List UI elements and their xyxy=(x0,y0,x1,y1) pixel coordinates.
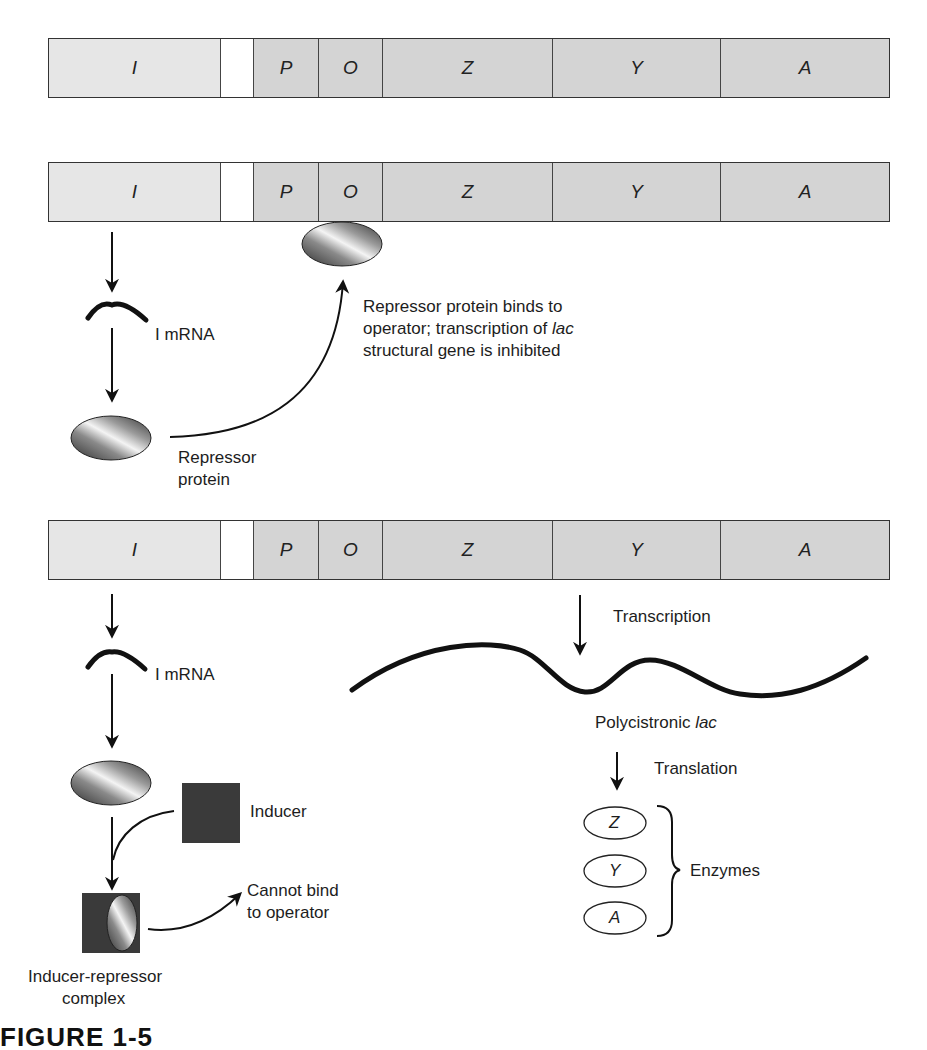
repressor-protein-label-line1: Repressor xyxy=(178,447,256,469)
binding-text-line1: Repressor protein binds to xyxy=(363,296,562,318)
polycistronic-prefix: Polycistronic xyxy=(595,713,695,732)
cannot-bind-line2: to operator xyxy=(247,902,329,924)
lac-italic: lac xyxy=(695,713,717,732)
complex-label-line1: Inducer-repressor xyxy=(28,966,162,988)
figure-caption: FIGURE 1-5 xyxy=(0,1022,153,1050)
binding-text-line2: operator; transcription of lac xyxy=(363,318,574,340)
binding-text-prefix: operator; transcription of xyxy=(363,319,552,338)
transcription-label: Transcription xyxy=(613,606,711,628)
binding-text-line3: structural gene is inhibited xyxy=(363,340,561,362)
translation-label: Translation xyxy=(654,758,737,780)
lac-italic: lac xyxy=(552,319,574,338)
complex-label-line2: complex xyxy=(62,988,125,1010)
cannot-bind-line1: Cannot bind xyxy=(247,880,339,902)
repressor-protein-icon xyxy=(71,761,151,805)
mrna-strand-icon xyxy=(88,652,145,669)
enzyme-a-label: A xyxy=(609,907,620,929)
repressor-in-complex-icon xyxy=(107,895,137,951)
induced-panel xyxy=(71,594,866,953)
inducer-square-icon xyxy=(182,783,240,843)
merge-curve-icon xyxy=(113,811,174,860)
repressor-protein-label-line2: protein xyxy=(178,469,230,491)
curved-arrow-icon xyxy=(170,282,343,437)
enzymes-label: Enzymes xyxy=(690,860,760,882)
i-mrna-label: I mRNA xyxy=(155,664,215,686)
repressor-protein-icon xyxy=(71,416,151,460)
repressed-panel xyxy=(71,222,382,460)
bound-repressor-icon xyxy=(302,222,382,266)
enzyme-z-label: Z xyxy=(609,812,619,834)
curved-arrow-icon xyxy=(148,894,240,930)
inducer-label: Inducer xyxy=(250,801,307,823)
i-mrna-label: I mRNA xyxy=(155,324,215,346)
brace-icon xyxy=(657,806,680,936)
mrna-strand-icon xyxy=(88,304,146,320)
polycistronic-mrna-icon xyxy=(352,645,866,696)
enzyme-y-label: Y xyxy=(609,860,620,882)
polycistronic-label: Polycistronic lac xyxy=(595,712,717,734)
